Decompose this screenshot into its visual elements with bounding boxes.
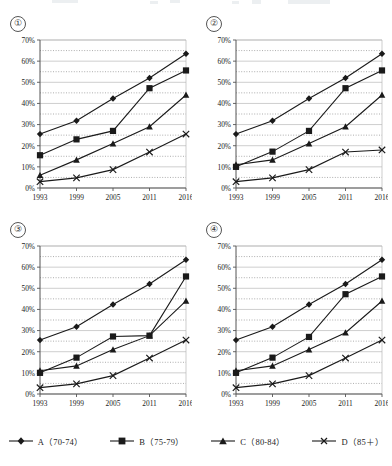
y-tick-label: 60% <box>21 263 35 272</box>
x-tick-label: 2016 <box>375 193 388 202</box>
legend-label-c: C（80-84） <box>240 435 285 447</box>
y-tick-label: 0% <box>25 390 35 399</box>
panel-4-chart: 0%10%20%30%40%50%60%70%19931999200520112… <box>210 240 388 416</box>
panel-1-number: ① <box>10 16 26 32</box>
series-line <box>236 70 382 166</box>
data-point-square <box>379 273 385 279</box>
data-point-square <box>110 333 116 339</box>
x-tick-label: 2005 <box>302 193 317 202</box>
panel-3: ③ 0%10%20%30%40%50%60%70%199319992005201… <box>0 216 196 422</box>
legend: A（70-74） B（75-79） C（80-84） D（85＋） <box>0 430 392 452</box>
y-tick-label: 70% <box>21 242 35 251</box>
data-point-triangle <box>306 346 313 352</box>
data-point-diamond <box>37 131 43 137</box>
y-tick-label: 40% <box>217 99 231 108</box>
y-tick-label: 50% <box>217 284 231 293</box>
x-tick-label: 2011 <box>142 399 157 408</box>
panel-3-plot: 0%10%20%30%40%50%60%70%19931999200520112… <box>14 240 192 416</box>
panel-3-number: ③ <box>10 222 26 238</box>
series-line <box>236 54 382 134</box>
data-point-square <box>342 291 348 297</box>
data-point-square <box>183 273 189 279</box>
data-point-triangle <box>73 156 80 162</box>
panel-1-plot: 0%10%20%30%40%50%60%70%19931999200520112… <box>14 34 192 210</box>
y-tick-label: 50% <box>21 284 35 293</box>
data-point-diamond <box>379 51 385 57</box>
data-point-diamond <box>306 95 312 101</box>
x-tick-label: 2016 <box>179 193 192 202</box>
data-point-square <box>269 149 275 155</box>
data-point-triangle <box>73 362 80 368</box>
y-tick-label: 60% <box>217 263 231 272</box>
legend-item-b: B（75-79） <box>109 435 184 447</box>
y-tick-label: 0% <box>221 184 231 193</box>
data-point-diamond <box>146 75 152 81</box>
x-tick-label: 1999 <box>265 193 280 202</box>
panel-4-plot: 0%10%20%30%40%50%60%70%19931999200520112… <box>210 240 388 416</box>
data-point-diamond <box>269 118 275 124</box>
y-tick-label: 20% <box>21 348 35 357</box>
legend-label-b: B（75-79） <box>139 435 184 447</box>
data-point-cross <box>146 355 152 361</box>
x-tick-label: 1993 <box>229 399 244 408</box>
panel-2-plot: 0%10%20%30%40%50%60%70%19931999200520112… <box>210 34 388 210</box>
data-point-square <box>183 67 189 73</box>
panel-4-number: ④ <box>206 222 222 238</box>
data-point-square <box>110 128 116 134</box>
series-line <box>236 260 382 340</box>
data-point-diamond <box>110 301 116 307</box>
data-point-diamond <box>306 301 312 307</box>
y-tick-label: 20% <box>21 142 35 151</box>
data-point-diamond <box>379 257 385 263</box>
data-point-triangle <box>37 172 44 178</box>
y-tick-label: 70% <box>21 36 35 45</box>
data-point-cross <box>146 149 152 155</box>
y-tick-label: 10% <box>217 163 231 172</box>
y-tick-label: 30% <box>21 120 35 129</box>
data-point-triangle <box>183 298 190 304</box>
legend-item-c: C（80-84） <box>210 435 285 447</box>
data-point-diamond <box>37 337 43 343</box>
multi-panel-line-chart-figure: ① 0%10%20%30%40%50%60%70%199319992005201… <box>0 0 392 466</box>
series-line <box>40 260 186 340</box>
data-point-diamond <box>183 51 189 57</box>
data-point-diamond <box>233 131 239 137</box>
y-tick-label: 20% <box>217 348 231 357</box>
data-point-square <box>73 355 79 361</box>
data-point-square <box>37 152 43 158</box>
y-tick-label: 70% <box>217 242 231 251</box>
x-tick-label: 2011 <box>338 399 353 408</box>
x-tick-label: 1999 <box>265 399 280 408</box>
panel-2-number: ② <box>206 16 222 32</box>
y-tick-label: 60% <box>217 57 231 66</box>
x-tick-label: 2016 <box>179 399 192 408</box>
legend-label-a: A（70-74） <box>38 435 84 447</box>
panel-2: ② 0%10%20%30%40%50%60%70%199319992005201… <box>196 10 392 216</box>
legend-label-d: D（85＋） <box>341 435 384 447</box>
y-tick-label: 30% <box>217 120 231 129</box>
data-point-triangle <box>306 140 313 146</box>
x-tick-label: 1993 <box>33 193 48 202</box>
data-point-square <box>306 128 312 134</box>
x-tick-label: 1993 <box>33 399 48 408</box>
panel-2-chart: 0%10%20%30%40%50%60%70%19931999200520112… <box>210 34 388 210</box>
cross-marker-icon <box>311 436 337 446</box>
panel-1-chart: 0%10%20%30%40%50%60%70%19931999200520112… <box>14 34 192 210</box>
series-line <box>40 54 186 134</box>
scan-artifact-strip <box>0 0 392 9</box>
x-tick-label: 1993 <box>229 193 244 202</box>
x-tick-label: 1999 <box>69 193 84 202</box>
y-tick-label: 40% <box>217 305 231 314</box>
y-tick-label: 60% <box>21 57 35 66</box>
data-point-square <box>379 67 385 73</box>
data-point-diamond <box>73 118 79 124</box>
y-tick-label: 0% <box>25 184 35 193</box>
data-point-triangle <box>269 362 276 368</box>
x-tick-label: 2011 <box>142 193 157 202</box>
x-tick-label: 2005 <box>106 193 121 202</box>
x-tick-label: 2005 <box>106 399 121 408</box>
data-point-triangle <box>269 156 276 162</box>
data-point-diamond <box>269 324 275 330</box>
x-tick-label: 2005 <box>302 399 317 408</box>
y-tick-label: 40% <box>21 305 35 314</box>
